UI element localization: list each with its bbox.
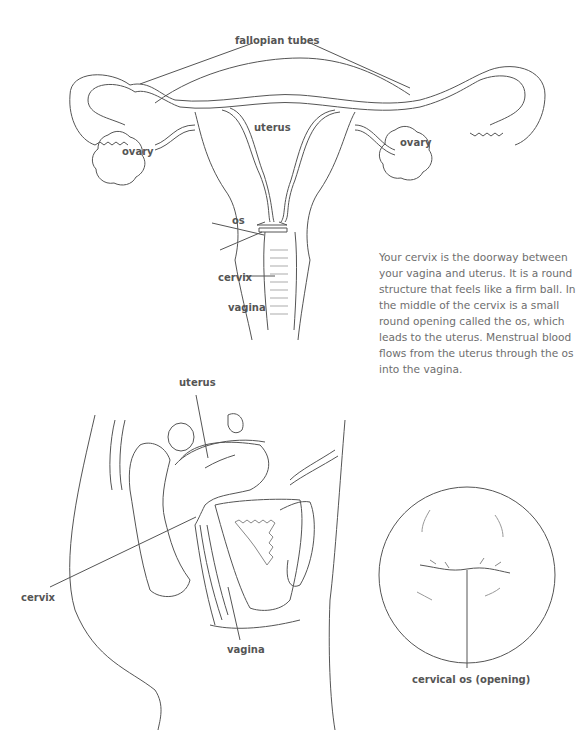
label-uterus-front: uterus — [254, 122, 291, 133]
label-cervix-front: cervix — [218, 272, 252, 283]
cervix-description: Your cervix is the doorway between your … — [379, 249, 579, 377]
label-uterus-side: uterus — [179, 377, 216, 388]
side-view-drawing — [50, 395, 345, 730]
label-cervix-side: cervix — [21, 592, 55, 603]
label-vagina-front: vagina — [228, 302, 266, 313]
label-os: os — [232, 215, 245, 226]
label-fallopian-tubes: fallopian tubes — [235, 35, 320, 46]
label-cervical-os: cervical os (opening) — [412, 674, 530, 685]
label-ovary-right: ovary — [400, 137, 432, 148]
cervix-view-drawing — [379, 487, 555, 668]
label-ovary-left: ovary — [122, 146, 154, 157]
label-vagina-side: vagina — [227, 644, 265, 655]
